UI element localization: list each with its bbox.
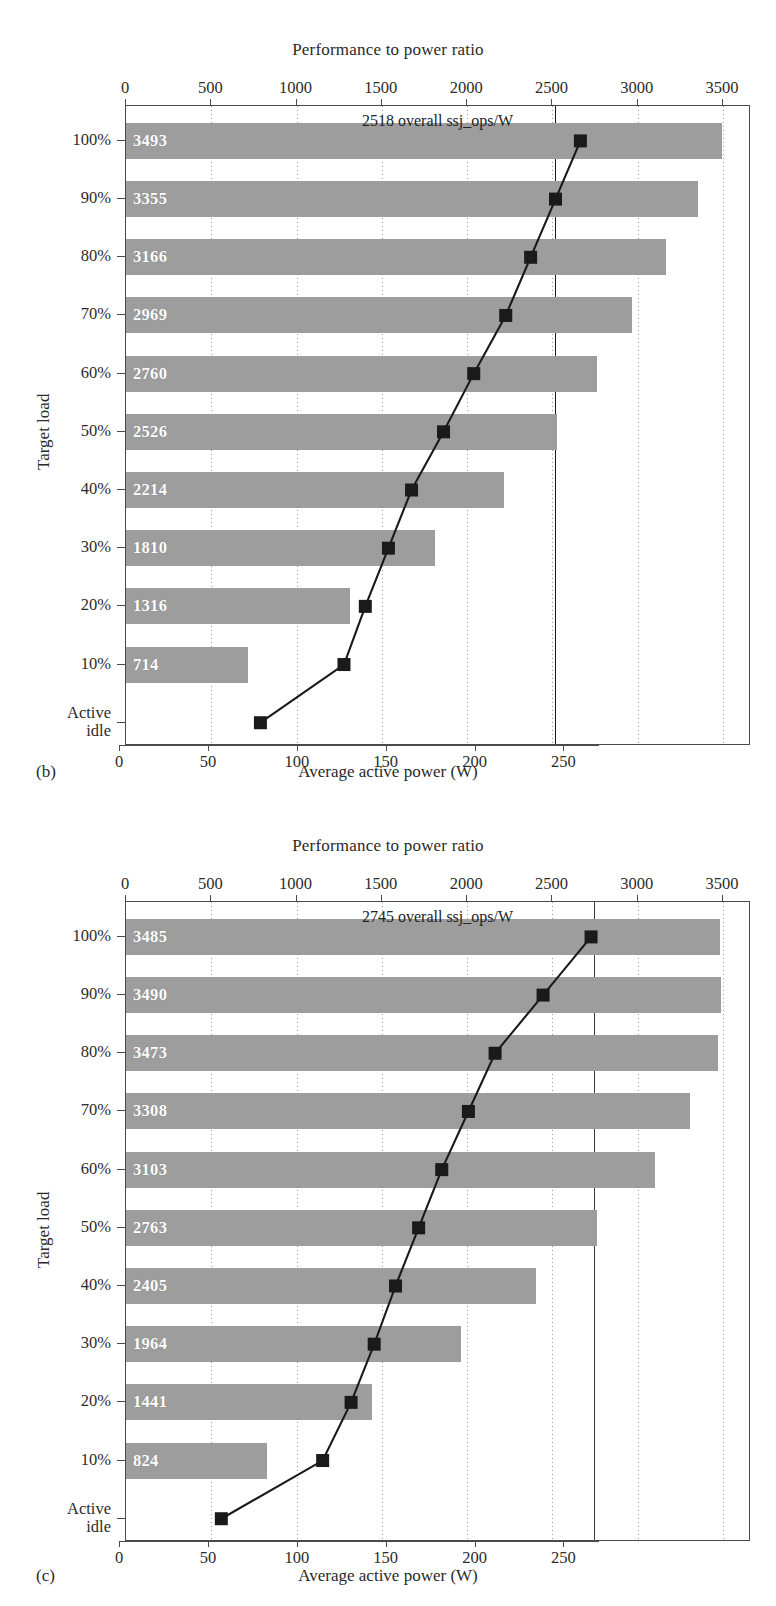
y-tick-label-70%: 70% [0,1100,111,1120]
y-tick-label-10%: 10% [0,1450,111,1470]
y-tickmark [117,489,125,490]
top-tick-0: 0 [121,874,129,894]
overall-ratio-label-c: 2745 overall ssj_ops/W [362,908,513,926]
data-marker-50% [437,425,450,438]
data-marker-80% [489,1047,502,1060]
plot-area-b: 349333553166296927602526221418101316714 [125,105,750,745]
y-tick-label-50%: 50% [0,1217,111,1237]
data-marker-90% [549,193,562,206]
y-tickmark [117,994,125,995]
top-tickmark [125,99,126,105]
top-tick-2500: 2500 [535,874,568,894]
top-tickmark [637,895,638,901]
data-marker-30% [382,542,395,555]
bottom-tick-250: 250 [551,1548,576,1568]
y-tickmark [117,1518,125,1519]
y-tickmark [117,431,125,432]
data-marker-90% [537,989,550,1002]
y-tick-label-100%: 100% [0,926,111,946]
top-tick-1500: 1500 [364,874,397,894]
top-tick-2000: 2000 [450,874,483,894]
y-tickmark [117,1401,125,1402]
y-axis-title-c: Target load [34,1192,54,1268]
y-tickmark [117,1052,125,1053]
y-tick-label-50%: 50% [0,421,111,441]
y-tick-label-80%: 80% [0,246,111,266]
top-tickmark [381,895,382,901]
y-tick-label-40%: 40% [0,1275,111,1295]
top-tickmark [466,895,467,901]
panel-letter-b: (b) [36,762,56,782]
y-tickmark [117,256,125,257]
y-tick-label-20%: 20% [0,595,111,615]
y-tick-label-line: Active [0,1499,111,1517]
bottom-axis-title-c: Average active power (W) [0,1566,776,1586]
y-tickmark [117,1343,125,1344]
top-axis-tick-labels-c: 0500100015002000250030003500 [0,874,776,894]
top-tickmark [125,895,126,901]
top-tick-2500: 2500 [535,78,568,98]
bottom-tick-100: 100 [284,1548,309,1568]
y-tick-label-80%: 80% [0,1042,111,1062]
y-tick-label-100%: 100% [0,130,111,150]
bottom-tick-150: 150 [373,1548,398,1568]
top-tickmark [722,99,723,105]
top-tick-1000: 1000 [279,874,312,894]
top-tickmark [296,99,297,105]
top-tickmark [296,895,297,901]
bottom-tick-50: 50 [200,1548,217,1568]
y-tickmark [117,1227,125,1228]
top-axis-tick-labels-b: 0500100015002000250030003500 [0,78,776,98]
y-tickmark [117,547,125,548]
data-marker-70% [462,1105,475,1118]
data-marker-40% [389,1280,402,1293]
overall-ratio-label-b: 2518 overall ssj_ops/W [362,112,513,130]
panel-letter-c: (c) [36,1566,55,1586]
y-tickmark [117,664,125,665]
data-marker-Active idle [254,716,267,729]
top-tick-3500: 3500 [706,78,739,98]
y-tickmark [117,1169,125,1170]
top-tick-3500: 3500 [706,874,739,894]
top-axis-title-b: Performance to power ratio [0,40,776,60]
data-marker-10% [337,658,350,671]
y-tickmark [117,1110,125,1111]
data-marker-20% [345,1396,358,1409]
data-marker-Active idle [215,1512,228,1525]
top-tickmark [210,895,211,901]
bottom-axis-line [119,745,599,746]
data-marker-10% [316,1454,329,1467]
data-marker-100% [585,930,598,943]
y-tick-label-30%: 30% [0,1333,111,1353]
data-marker-30% [368,1338,381,1351]
y-tickmark [117,1285,125,1286]
y-tick-label-Active-idle: Activeidle [0,1499,111,1536]
y-tick-label-20%: 20% [0,1391,111,1411]
top-tickmark [210,99,211,105]
top-tick-1500: 1500 [364,78,397,98]
data-marker-100% [574,134,587,147]
power-line [221,937,591,1519]
data-marker-80% [524,251,537,264]
top-tick-500: 500 [198,874,223,894]
y-tickmark [117,373,125,374]
power-line-series [126,106,751,746]
y-tick-label-line: idle [0,1518,111,1536]
y-tickmark [117,936,125,937]
panel-c: Performance to power ratio 0500100015002… [0,800,776,1606]
y-tick-label-90%: 90% [0,188,111,208]
y-tickmark [117,140,125,141]
data-marker-20% [359,600,372,613]
y-tick-label-line: idle [0,722,111,740]
top-tickmark [637,99,638,105]
y-axis-title-b: Target load [34,394,54,470]
top-tickmark [722,895,723,901]
panel-b: Performance to power ratio 0500100015002… [0,0,776,800]
y-tickmark [117,314,125,315]
power-line-series [126,902,751,1542]
bottom-tick-200: 200 [462,1548,487,1568]
bottom-axis-tick-labels-c: 050100150200250 [0,1548,776,1568]
top-tick-2000: 2000 [450,78,483,98]
data-marker-40% [405,484,418,497]
top-tickmark [551,99,552,105]
